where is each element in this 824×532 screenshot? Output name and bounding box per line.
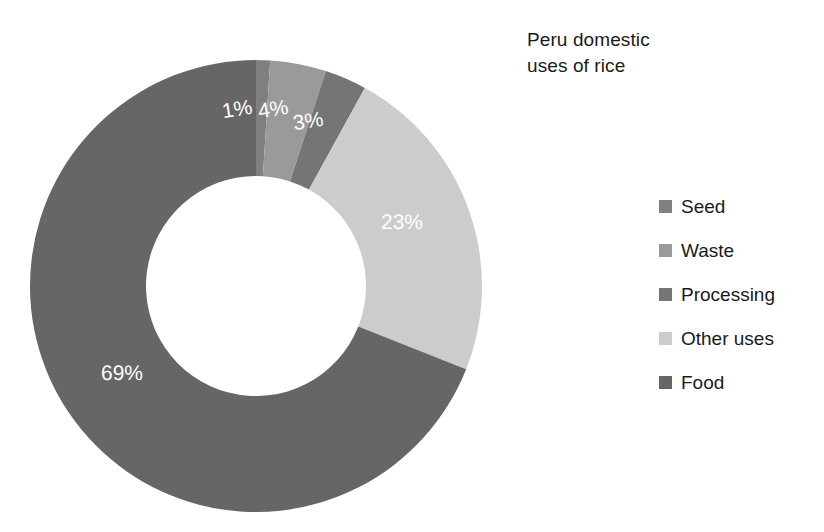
legend-swatch-icon: [659, 244, 672, 257]
legend-item-food[interactable]: Food: [659, 360, 819, 404]
legend-item-label: Seed: [681, 197, 725, 216]
legend-swatch-icon: [659, 376, 672, 389]
legend-item-waste[interactable]: Waste: [659, 228, 819, 272]
legend-item-label: Waste: [681, 241, 734, 260]
chart-legend: SeedWasteProcessingOther usesFood: [659, 184, 819, 404]
donut-chart: Peru domestic uses of rice 1%4%23%3%69% …: [0, 0, 824, 532]
legend-swatch-icon: [659, 288, 672, 301]
legend-item-other-uses[interactable]: Other uses: [659, 316, 819, 360]
legend-item-label: Food: [681, 373, 724, 392]
donut-svg: [28, 58, 484, 514]
legend-item-seed[interactable]: Seed: [659, 184, 819, 228]
legend-swatch-icon: [659, 200, 672, 213]
donut-slices: [30, 60, 482, 512]
chart-title: Peru domestic uses of rice: [527, 27, 777, 79]
legend-item-label: Other uses: [681, 329, 774, 348]
legend-item-processing[interactable]: Processing: [659, 272, 819, 316]
donut-plot-area: [28, 58, 484, 514]
legend-item-label: Processing: [681, 285, 775, 304]
legend-swatch-icon: [659, 332, 672, 345]
